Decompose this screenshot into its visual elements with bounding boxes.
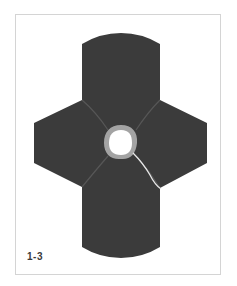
figure-label: 1-3 [27, 251, 43, 262]
center-hole [109, 130, 132, 155]
cross-pattern-figure [0, 0, 237, 286]
